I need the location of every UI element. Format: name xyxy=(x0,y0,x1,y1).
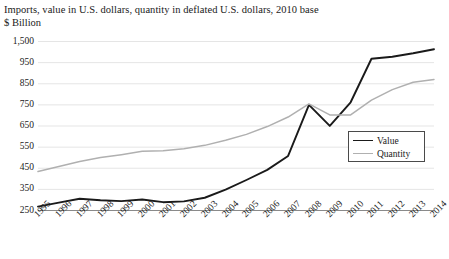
legend-swatch-value xyxy=(353,140,373,141)
series-line-value xyxy=(38,49,434,206)
chart-title: Imports, value in U.S. dollars, quantity… xyxy=(4,3,319,16)
legend-label-quantity: Quantity xyxy=(377,149,410,159)
legend-item-quantity: Quantity xyxy=(353,147,410,160)
y-axis-unit-label: $ Billion xyxy=(4,16,319,29)
y-axis-tick-950: 950 xyxy=(0,58,34,68)
legend-item-value: Value xyxy=(353,134,399,147)
y-axis-tick-250: 250 xyxy=(0,206,34,216)
x-axis-tick-labels: 1995199619971998199920002001200220032004… xyxy=(38,212,438,259)
y-axis-tick-labels: 1,500950850750650550450350250 xyxy=(0,41,34,210)
y-axis-tick-1500: 1,500 xyxy=(0,37,34,47)
y-axis-tick-450: 450 xyxy=(0,163,34,173)
legend-label-value: Value xyxy=(377,136,399,146)
series-lines xyxy=(38,41,434,210)
chart-legend: Value Quantity xyxy=(348,131,425,162)
y-axis-tick-650: 650 xyxy=(0,121,34,131)
y-axis-tick-350: 350 xyxy=(0,184,34,194)
y-axis-tick-750: 750 xyxy=(0,100,34,110)
plot-area xyxy=(38,41,434,210)
chart-header: Imports, value in U.S. dollars, quantity… xyxy=(4,3,319,29)
y-axis-tick-550: 550 xyxy=(0,142,34,152)
y-axis-tick-850: 850 xyxy=(0,79,34,89)
legend-swatch-quantity xyxy=(353,153,373,154)
